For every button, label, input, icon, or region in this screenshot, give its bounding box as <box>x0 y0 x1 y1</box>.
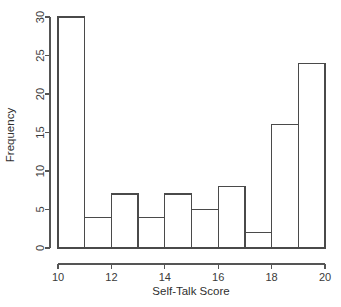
histogram-bar <box>192 210 219 249</box>
histogram-bar <box>111 194 138 248</box>
x-tick-label: 10 <box>52 271 64 283</box>
x-axis-title: Self-Talk Score <box>152 285 229 297</box>
histogram-bar <box>58 17 85 248</box>
histogram-canvas: 101214161820 051015202530 Self-Talk Scor… <box>0 0 341 307</box>
histogram-bar <box>245 233 272 248</box>
x-tick-label: 14 <box>159 271 171 283</box>
y-tick-label: 20 <box>34 88 46 100</box>
histogram-bar <box>272 125 299 248</box>
y-tick-label: 5 <box>34 206 46 212</box>
histogram-bar <box>218 186 245 248</box>
x-tick-label: 18 <box>265 271 277 283</box>
histogram-bar <box>165 194 192 248</box>
x-tick-label: 12 <box>105 271 117 283</box>
y-tick-label: 25 <box>34 49 46 61</box>
histogram-chart: 101214161820 051015202530 Self-Talk Scor… <box>0 0 341 307</box>
x-tick-label: 16 <box>212 271 224 283</box>
bars-group <box>58 17 325 248</box>
x-tick-label: 20 <box>319 271 331 283</box>
y-tick-label: 10 <box>34 165 46 177</box>
y-tick-label: 0 <box>34 245 46 251</box>
y-axis: 051015202530 <box>34 11 50 251</box>
y-tick-label: 15 <box>34 126 46 138</box>
y-tick-label: 30 <box>34 11 46 23</box>
histogram-bar <box>138 217 165 248</box>
x-axis: 101214161820 <box>52 264 331 283</box>
histogram-bar <box>85 217 112 248</box>
histogram-bar <box>298 63 325 248</box>
y-axis-title: Frequency <box>4 108 16 163</box>
